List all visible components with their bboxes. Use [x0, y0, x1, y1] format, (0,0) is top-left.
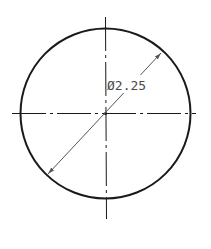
vertical-centerline — [106, 17, 107, 219]
circle-drawing: Ø2.25 — [0, 0, 211, 249]
diameter-label: Ø2.25 — [107, 78, 146, 93]
